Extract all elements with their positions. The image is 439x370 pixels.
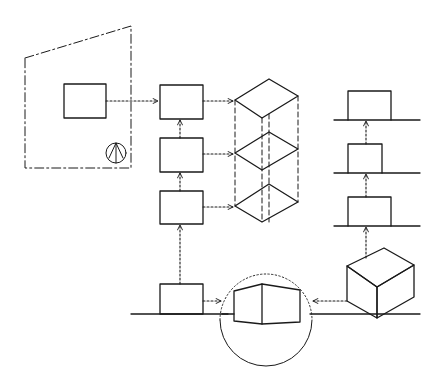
section-box-2 xyxy=(348,144,382,173)
middle-box-1 xyxy=(160,85,203,119)
iso-floor-plate-3 xyxy=(235,184,298,222)
cube-left-face xyxy=(347,266,377,318)
section-box-1 xyxy=(348,91,391,120)
north-arrow-icon xyxy=(106,143,126,163)
site-plan xyxy=(25,26,131,168)
focus-circle-lower xyxy=(220,320,312,366)
site-boundary xyxy=(25,26,131,168)
iso-floor-plate-1 xyxy=(235,79,298,118)
middle-box-2 xyxy=(160,138,203,172)
right-column-sections xyxy=(334,91,420,226)
section-box-3 xyxy=(348,197,391,226)
cube-right-face xyxy=(377,265,414,318)
flow-arrows xyxy=(106,101,366,301)
focus-building-circle xyxy=(220,274,312,366)
site-building xyxy=(64,84,106,118)
cube-top-face xyxy=(347,248,414,287)
isometric-cube xyxy=(310,248,420,318)
middle-box-4 xyxy=(160,284,203,314)
focus-building xyxy=(234,284,300,324)
isometric-floor-stack xyxy=(235,79,298,222)
architectural-concept-diagram xyxy=(0,0,439,370)
iso-floor-plate-2 xyxy=(235,132,298,170)
middle-box-3 xyxy=(160,191,203,224)
